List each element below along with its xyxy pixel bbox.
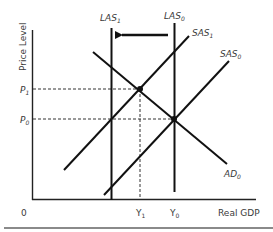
sas0-curve [104, 61, 229, 195]
ad0-curve [93, 52, 227, 164]
as-ad-diagram: Price Level Real GDP 0 P1 P0 Y1 Y0 LAS1 … [0, 0, 273, 232]
y1-label: Y1 [135, 208, 146, 219]
sas1-label: SAS1 [192, 28, 213, 39]
equilibrium-point-0 [171, 116, 177, 122]
y0-label: Y0 [169, 208, 180, 219]
las0-label: LAS0 [164, 11, 185, 22]
sas1-curve [64, 36, 189, 170]
sas0-label: SAS0 [220, 49, 242, 60]
las1-label: LAS1 [100, 13, 121, 24]
x-axis-label: Real GDP [218, 208, 260, 218]
p1-label: P1 [20, 85, 29, 96]
p0-label: P0 [20, 115, 29, 126]
ad0-label: AD0 [223, 169, 241, 180]
origin-label: 0 [21, 208, 27, 218]
equilibrium-point-1 [137, 86, 143, 92]
y-axis-label: Price Level [18, 22, 28, 71]
